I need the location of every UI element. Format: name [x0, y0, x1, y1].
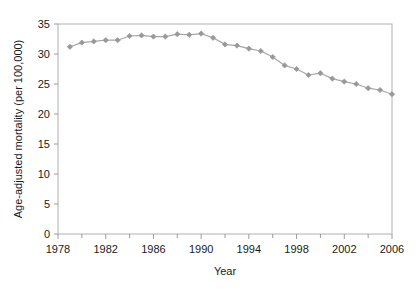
chart-container: 05101520253035 1978198219861990199419982…: [0, 0, 417, 293]
x-axis-tick-label: 1994: [237, 243, 261, 255]
x-axis-tick-label: 1978: [46, 243, 70, 255]
data-point-marker: [330, 76, 335, 81]
x-axis-tick-label: 2006: [380, 243, 404, 255]
data-point-marker: [163, 34, 168, 39]
x-axis-tick-label: 1982: [93, 243, 117, 255]
x-axis-ticks: [58, 234, 392, 239]
data-point-marker: [103, 38, 108, 43]
y-axis-tick-label: 5: [44, 198, 50, 210]
line-chart: 05101520253035 1978198219861990199419982…: [0, 0, 417, 293]
y-axis-title: Age-adjusted mortality (per 100,000): [12, 40, 24, 219]
data-point-marker: [354, 81, 359, 86]
data-point-marker: [366, 86, 371, 91]
x-axis-title: Year: [214, 265, 237, 277]
x-axis-tick-label: 2002: [332, 243, 356, 255]
y-axis-tick-label: 35: [38, 18, 50, 30]
y-axis-tick-label: 20: [38, 108, 50, 120]
x-axis-tick-label: 1998: [284, 243, 308, 255]
y-axis-tick-label: 25: [38, 78, 50, 90]
data-point-marker: [210, 35, 215, 40]
data-point-marker: [246, 46, 251, 51]
data-series-markers: [67, 31, 394, 97]
y-axis-tick-label: 10: [38, 168, 50, 180]
data-point-marker: [139, 33, 144, 38]
x-axis-tick-labels: 19781982198619901994199820022006: [46, 243, 404, 255]
data-point-marker: [258, 48, 263, 53]
data-point-marker: [377, 87, 382, 92]
y-axis-tick-label: 30: [38, 48, 50, 60]
data-point-marker: [151, 34, 156, 39]
y-axis-tick-label: 15: [38, 138, 50, 150]
data-point-marker: [222, 42, 227, 47]
data-point-marker: [91, 39, 96, 44]
data-point-marker: [389, 92, 394, 97]
data-point-marker: [79, 40, 84, 45]
data-point-marker: [318, 71, 323, 76]
data-point-marker: [175, 32, 180, 37]
y-axis-tick-labels: 05101520253035: [38, 18, 50, 240]
data-point-marker: [67, 44, 72, 49]
x-axis-tick-label: 1986: [141, 243, 165, 255]
y-axis-tick-label: 0: [44, 228, 50, 240]
plot-area-frame: [58, 24, 392, 234]
plot-border: [58, 24, 392, 234]
data-point-marker: [306, 72, 311, 77]
data-point-marker: [115, 38, 120, 43]
data-point-marker: [342, 79, 347, 84]
data-point-marker: [199, 31, 204, 36]
data-point-marker: [127, 33, 132, 38]
data-point-marker: [294, 66, 299, 71]
x-axis-tick-label: 1990: [189, 243, 213, 255]
y-axis-ticks: [54, 24, 58, 234]
data-point-marker: [187, 32, 192, 37]
data-point-marker: [234, 43, 239, 48]
